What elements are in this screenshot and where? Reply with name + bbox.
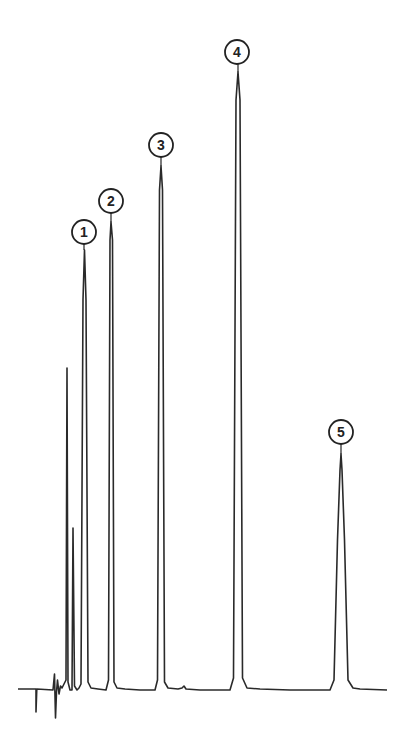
peak-label-3: 3 — [149, 133, 173, 166]
peak-label-5: 5 — [329, 420, 353, 454]
peak-label-text: 4 — [233, 44, 241, 60]
peak-label-1: 1 — [72, 220, 96, 250]
peak-label-text: 1 — [80, 224, 88, 240]
chromatogram-trace — [18, 72, 387, 718]
peak-label-text: 2 — [107, 193, 115, 209]
chromatogram-chart: 1 2 3 4 5 — [0, 0, 406, 731]
peak-label-text: 3 — [157, 137, 165, 153]
peak-label-4: 4 — [225, 40, 249, 72]
peak-label-text: 5 — [337, 424, 345, 440]
peak-label-2: 2 — [99, 189, 123, 222]
